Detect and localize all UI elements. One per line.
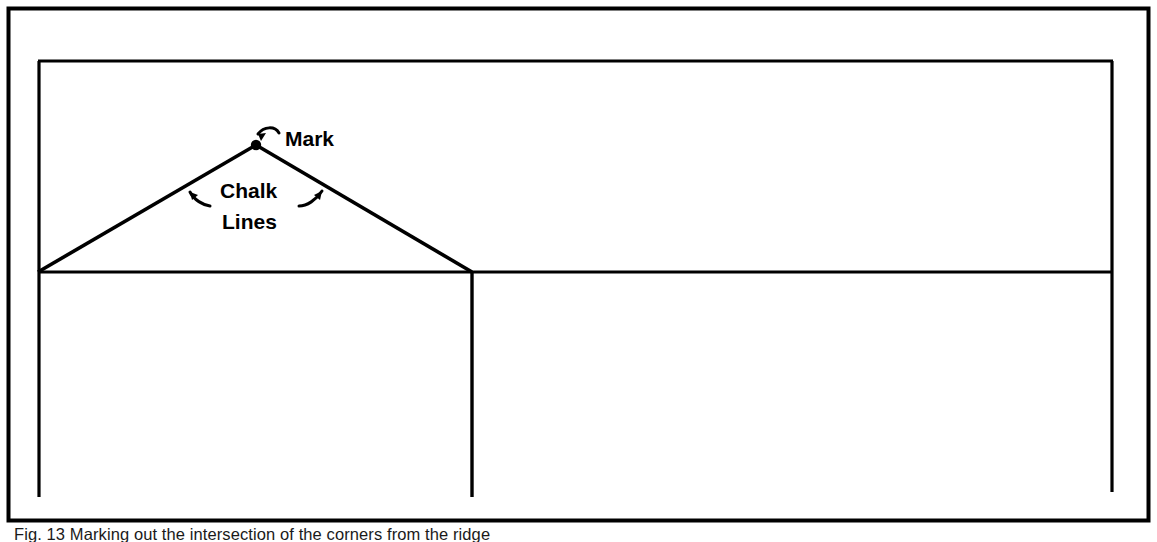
figure-container: Mark Chalk Lines Fig. 13 Marking out the… — [0, 0, 1157, 542]
label-lines: Lines — [222, 210, 277, 233]
marking-out-diagram: Mark Chalk Lines Fig. 13 Marking out the… — [0, 0, 1157, 542]
figure-caption: Fig. 13 Marking out the intersection of … — [14, 525, 490, 542]
intersection-mark-dot — [251, 140, 261, 150]
label-mark: Mark — [285, 127, 334, 150]
label-chalk: Chalk — [220, 179, 278, 202]
